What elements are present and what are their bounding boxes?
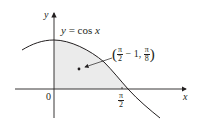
y-axis-label: y — [44, 10, 48, 20]
curve-label-eq: = cos — [66, 24, 95, 36]
centroid-middle-text: − 1, — [123, 48, 144, 59]
curve-label-var: x — [95, 24, 100, 36]
curve-label: y = cos x — [61, 25, 100, 36]
origin-label: 0 — [46, 92, 51, 102]
x-tick-den: 2 — [119, 101, 123, 109]
close-paren: ) — [150, 46, 155, 62]
x-axis-label: x — [183, 92, 187, 102]
graph-canvas — [0, 0, 197, 126]
centroid-point — [78, 68, 81, 71]
centroid-label: (π2 − 1, π8) — [112, 46, 155, 63]
x-tick-label: π2 — [118, 91, 124, 109]
